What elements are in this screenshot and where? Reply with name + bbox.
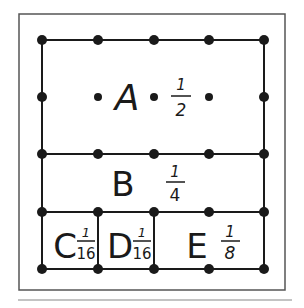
grid-dot xyxy=(259,149,269,159)
grid-dot xyxy=(93,207,103,217)
region-e-denominator: 8 xyxy=(225,243,236,263)
region-c-numerator: 1 xyxy=(82,225,90,240)
region-b-numerator: 1 xyxy=(170,163,180,181)
region-c: C 1 16 xyxy=(53,225,95,266)
grid-dot xyxy=(204,149,214,159)
grid-dot xyxy=(94,93,102,101)
grid-dot xyxy=(150,93,158,101)
region-e-numerator: 1 xyxy=(225,223,235,241)
region-a-denominator: 2 xyxy=(176,100,187,120)
grid-dot xyxy=(259,92,269,102)
region-a-letter: A xyxy=(113,77,140,118)
fraction-diagram: A 1 2 B 1 4 C 1 16 D 1 16 E 1 8 xyxy=(0,0,304,308)
region-d-denominator: 16 xyxy=(132,245,151,263)
grid-dot xyxy=(149,207,159,217)
region-c-letter: C xyxy=(53,226,77,266)
grid-dot xyxy=(204,35,214,45)
region-b-letter: B xyxy=(111,164,134,204)
grid-dot xyxy=(149,35,159,45)
region-b: B 1 4 xyxy=(111,163,185,205)
grid-dot xyxy=(37,264,47,274)
grid-dot xyxy=(149,149,159,159)
grid-dot xyxy=(205,93,213,101)
region-d-letter: D xyxy=(107,226,133,266)
grid-dot xyxy=(93,149,103,159)
grid-dot xyxy=(37,149,47,159)
region-d: D 1 16 xyxy=(107,225,152,266)
region-a-numerator: 1 xyxy=(176,76,186,94)
region-b-denominator: 4 xyxy=(170,185,181,205)
grid-dot xyxy=(259,264,269,274)
grid-dot xyxy=(93,264,103,274)
grid-dot xyxy=(259,207,269,217)
grid-dot xyxy=(93,35,103,45)
region-e-letter: E xyxy=(186,226,207,266)
grid-dot xyxy=(259,35,269,45)
region-d-numerator: 1 xyxy=(138,225,146,240)
grid-dot xyxy=(37,92,47,102)
region-e: E 1 8 xyxy=(186,223,240,266)
grid-dot xyxy=(37,207,47,217)
grid-dot xyxy=(149,264,159,274)
grid-dot xyxy=(204,207,214,217)
grid-dot xyxy=(37,35,47,45)
region-c-denominator: 16 xyxy=(76,245,95,263)
